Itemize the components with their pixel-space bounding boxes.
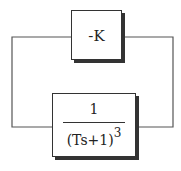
tf-denominator-base: (Ts+1) [67, 132, 114, 148]
gain-label: -K [72, 27, 121, 45]
tf-numerator: 1 [53, 101, 135, 117]
tf-denominator: (Ts+1)3 [53, 128, 135, 148]
transfer-function-block: 1 (Ts+1)3 [52, 93, 136, 157]
tf-denominator-exponent: 3 [114, 126, 122, 140]
fraction-line [63, 122, 125, 123]
gain-block: -K [71, 10, 122, 60]
block-diagram: -K 1 (Ts+1)3 [0, 0, 181, 171]
